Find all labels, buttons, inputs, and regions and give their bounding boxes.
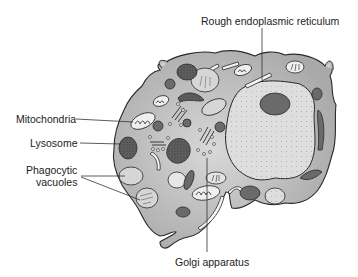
- label-phagocytic-line1: Phagocytic: [26, 164, 77, 176]
- label-golgi: Golgi apparatus: [175, 256, 249, 268]
- label-rough-er: Rough endoplasmic reticulum: [201, 15, 339, 27]
- nucleolus: [260, 93, 290, 115]
- cell-diagram: Rough endoplasmic reticulum Mitochondria…: [0, 0, 358, 277]
- label-phagocytic-line2: vacuoles: [36, 176, 77, 188]
- label-lysosome: Lysosome: [30, 137, 77, 149]
- label-mitochondria: Mitochondria: [16, 113, 76, 125]
